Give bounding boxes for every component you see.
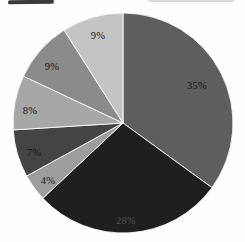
pie-chart-svg: 35%28%4%7%8%9%9% xyxy=(0,0,245,242)
slice-label-1: 28% xyxy=(116,215,136,226)
slice-label-5: 9% xyxy=(45,61,59,72)
slice-label-4: 8% xyxy=(23,105,37,116)
slice-label-0: 35% xyxy=(187,80,207,91)
pie-chart-figure: 35%28%4%7%8%9%9% xyxy=(0,0,245,242)
slice-label-3: 7% xyxy=(27,147,41,158)
slice-label-6: 9% xyxy=(91,30,105,41)
slice-label-2: 4% xyxy=(41,175,55,186)
